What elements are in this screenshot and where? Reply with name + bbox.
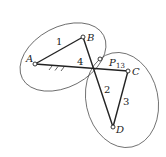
label-A: A — [25, 53, 33, 64]
joint-D — [111, 125, 115, 129]
link-label-1: 1 — [56, 36, 62, 47]
joint-B — [81, 35, 85, 39]
link-label-4: 4 — [77, 56, 83, 67]
linkage-diagram: A B C D P 13 1 4 2 3 — [0, 0, 166, 157]
link-label-2: 2 — [104, 84, 110, 95]
label-P: P — [108, 57, 116, 68]
instant-center-P13 — [98, 57, 102, 61]
label-D: D — [115, 124, 124, 135]
label-C: C — [132, 66, 140, 77]
link-2 — [83, 37, 113, 127]
label-B: B — [86, 32, 94, 43]
label-P-sub: 13 — [116, 62, 125, 70]
link-label-3: 3 — [123, 96, 129, 107]
ground-hatch — [49, 66, 64, 71]
joint-C — [126, 69, 130, 73]
joint-A — [33, 62, 37, 66]
